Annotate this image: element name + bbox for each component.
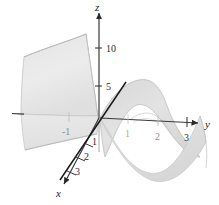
y-tick-label-2: 2 xyxy=(155,131,160,142)
x-tick-label-1: 1 xyxy=(92,136,97,147)
y-axis-negative-visible xyxy=(12,114,24,115)
y-tick-label-neg1: -1 xyxy=(62,126,70,137)
z-tick-label-5: 5 xyxy=(106,81,111,92)
surface-plot-figure: 10 5 -1 1 2 3 1 2 3 z y x xyxy=(0,0,219,205)
x-tick-label-3: 3 xyxy=(75,166,80,177)
y-tick-label-1: 1 xyxy=(125,128,130,139)
z-tick-label-10: 10 xyxy=(106,43,116,54)
x-tick-label-2: 2 xyxy=(84,151,89,162)
y-tick-label-3: 3 xyxy=(184,132,189,143)
z-axis-label: z xyxy=(94,1,100,13)
y-axis-label: y xyxy=(204,118,210,130)
x-axis-label: x xyxy=(55,187,61,199)
